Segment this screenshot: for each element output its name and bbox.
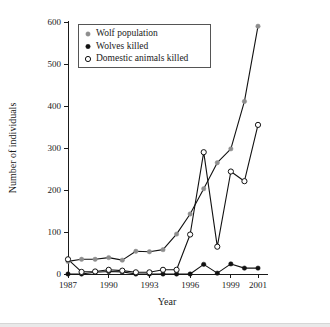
x-tick-label: 1996 xyxy=(181,280,200,290)
data-point xyxy=(161,247,165,251)
x-axis-title: Year xyxy=(158,296,177,307)
data-point xyxy=(229,262,233,266)
legend-entry: Wolves killed xyxy=(86,41,149,51)
data-point xyxy=(202,262,206,266)
data-point xyxy=(93,269,98,274)
x-tick-label: 1990 xyxy=(100,280,119,290)
data-point xyxy=(147,250,151,254)
line-chart: 0100200300400500600198719901993199619992… xyxy=(0,0,330,327)
y-axis-ticks: 0100200300400500600 xyxy=(48,17,69,279)
data-point xyxy=(188,232,193,237)
y-axis-title: Number of individuals xyxy=(7,103,18,194)
x-tick-label: 2001 xyxy=(249,280,267,290)
legend-entry: Wolf population xyxy=(86,28,158,38)
data-point xyxy=(134,249,138,253)
chart-figure: 0100200300400500600198719901993199619992… xyxy=(0,0,330,327)
data-point xyxy=(107,255,111,259)
x-tick-label: 1987 xyxy=(59,280,78,290)
x-tick-label: 1993 xyxy=(140,280,159,290)
footer-divider xyxy=(0,323,330,327)
y-tick-label: 100 xyxy=(48,227,62,237)
y-tick-label: 400 xyxy=(48,101,62,111)
data-point xyxy=(174,232,178,236)
data-point xyxy=(256,266,260,270)
black-filled-circle-marker xyxy=(86,44,90,48)
y-tick-label: 500 xyxy=(48,59,62,69)
y-tick-label: 0 xyxy=(57,269,62,279)
data-point xyxy=(120,258,124,262)
data-point xyxy=(188,272,192,276)
data-point xyxy=(160,267,165,272)
data-point xyxy=(215,161,219,165)
data-point xyxy=(242,179,247,184)
data-point xyxy=(242,266,246,270)
data-point xyxy=(93,257,97,261)
data-point xyxy=(65,257,70,262)
legend-label: Wolf population xyxy=(96,28,158,38)
data-point xyxy=(174,267,179,272)
data-point xyxy=(79,269,84,274)
data-point xyxy=(255,122,260,127)
data-point xyxy=(242,99,246,103)
data-point xyxy=(188,212,192,216)
open-circle-marker xyxy=(85,56,90,61)
legend-label: Domestic animals killed xyxy=(96,53,189,63)
y-tick-label: 600 xyxy=(48,17,62,27)
data-point xyxy=(202,187,206,191)
data-point xyxy=(228,169,233,174)
data-point xyxy=(79,257,83,261)
data-point xyxy=(106,267,111,272)
data-point xyxy=(215,271,219,275)
data-point xyxy=(133,270,138,275)
y-tick-label: 200 xyxy=(48,185,62,195)
data-point xyxy=(229,147,233,151)
legend-label: Wolves killed xyxy=(96,41,149,51)
chart-legend: Wolf populationWolves killedDomestic ani… xyxy=(78,24,210,67)
data-point xyxy=(201,150,206,155)
x-tick-label: 1999 xyxy=(222,280,241,290)
data-point xyxy=(120,268,125,273)
gray-filled-circle-marker xyxy=(86,32,90,36)
y-tick-label: 300 xyxy=(48,143,62,153)
data-point xyxy=(256,24,260,28)
data-point xyxy=(215,244,220,249)
data-point xyxy=(147,270,152,275)
legend-entry: Domestic animals killed xyxy=(85,53,188,63)
data-point xyxy=(66,272,70,276)
